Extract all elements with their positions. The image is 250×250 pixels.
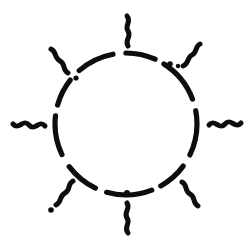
ray-west (13, 123, 45, 127)
dot-upper-left (73, 75, 78, 80)
dot-upper-right-inner (176, 64, 180, 68)
dot-upper-right (167, 61, 173, 67)
ray-north (127, 16, 129, 46)
ray-east (209, 122, 241, 126)
sun-drawing-canvas (0, 0, 250, 250)
ray-south (126, 203, 128, 233)
sun-illustration (0, 0, 250, 250)
dot-bottom-left-tip (48, 207, 54, 213)
dot-bottom (124, 190, 130, 196)
dot-left-edge (53, 126, 58, 131)
